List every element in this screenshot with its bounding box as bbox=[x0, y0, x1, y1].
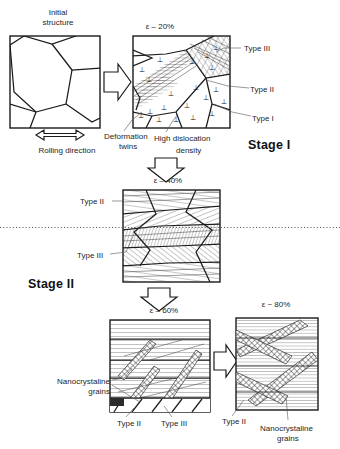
svg-text:⊥: ⊥ bbox=[139, 66, 145, 74]
svg-text:⊥: ⊥ bbox=[204, 52, 210, 60]
svg-text:⊥: ⊥ bbox=[161, 104, 167, 112]
svg-text:⊥: ⊥ bbox=[190, 114, 196, 122]
svg-text:⊥: ⊥ bbox=[138, 112, 144, 120]
svg-text:⊥: ⊥ bbox=[221, 98, 227, 106]
block-arrow-down-icon-60 bbox=[141, 288, 177, 311]
svg-text:⊥: ⊥ bbox=[157, 56, 163, 64]
panel-strain-40 bbox=[110, 190, 220, 282]
svg-text:⊥: ⊥ bbox=[168, 90, 174, 98]
svg-text:⊥: ⊥ bbox=[209, 110, 215, 118]
svg-text:⊥: ⊥ bbox=[203, 94, 209, 102]
svg-text:⊥: ⊥ bbox=[209, 64, 215, 72]
svg-text:⊥: ⊥ bbox=[147, 108, 153, 116]
svg-text:⊥: ⊥ bbox=[146, 76, 152, 84]
panel-initial-structure bbox=[10, 36, 100, 128]
diagram-canvas: ⊥⊥⊥ ⊥⊥⊥ ⊥⊥⊥ ⊥⊥⊥ ⊥⊥⊥ ⊥⊥⊥ ⊥⊥ bbox=[0, 0, 340, 449]
svg-text:⊥: ⊥ bbox=[189, 58, 195, 66]
svg-text:⊥: ⊥ bbox=[156, 116, 162, 124]
panel-strain-20: ⊥⊥⊥ ⊥⊥⊥ ⊥⊥⊥ ⊥⊥⊥ ⊥⊥⊥ ⊥⊥⊥ ⊥⊥ bbox=[124, 36, 251, 132]
block-arrow-down-icon-40 bbox=[148, 158, 184, 182]
block-arrow-right-icon bbox=[104, 64, 131, 100]
rolling-direction-arrow-icon bbox=[36, 130, 84, 140]
svg-text:⊥: ⊥ bbox=[173, 116, 179, 124]
panel-strain-80 bbox=[232, 318, 318, 420]
svg-text:⊥: ⊥ bbox=[213, 86, 219, 94]
microstructure-evolution-figure: Initial structure ε – 20% ε – 40% ε – 60… bbox=[0, 0, 340, 449]
panel-strain-60 bbox=[110, 320, 210, 417]
svg-text:⊥: ⊥ bbox=[193, 84, 199, 92]
svg-text:⊥: ⊥ bbox=[184, 102, 190, 110]
block-arrow-right-icon-80 bbox=[214, 345, 237, 377]
